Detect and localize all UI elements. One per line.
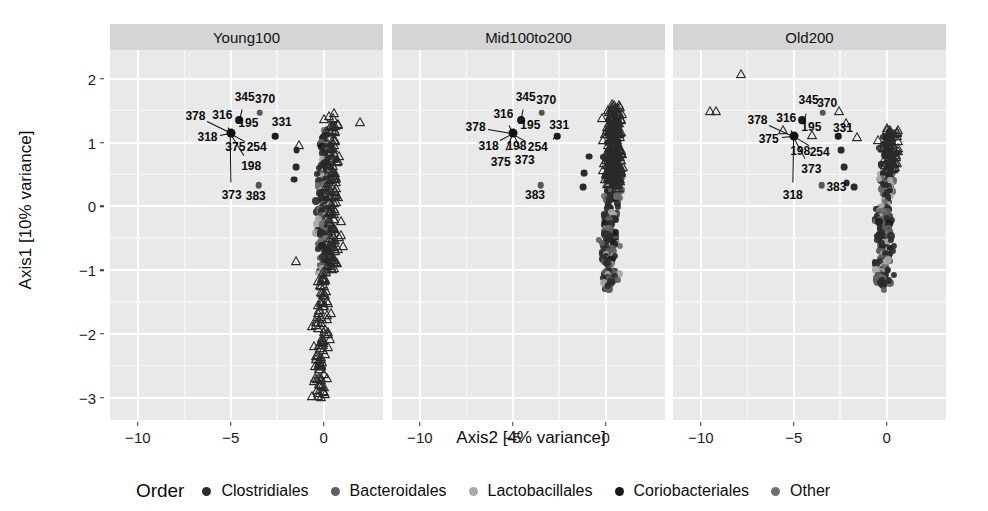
point-label-370: 370 [536,93,556,107]
x-axis-ticks: −10−50 [673,422,946,448]
y-tick-label: −2 [79,325,96,342]
point-label-345: 345 [235,90,255,104]
data-point-triangle [293,140,303,150]
legend-swatch-bacteroidales [331,487,340,496]
legend-title: Order [136,480,185,502]
data-point-circle [884,256,892,264]
x-tick-mark [700,422,702,426]
point-label-383: 383 [246,189,266,203]
y-tick-mark [100,206,104,208]
x-tick-mark [605,422,607,426]
data-point-circle [256,109,263,116]
gridline-minor-y [673,365,946,366]
point-label-370: 370 [255,92,275,106]
biplot-origin-point [508,128,517,137]
point-label-375: 375 [491,155,511,169]
biplot-origin-point [789,132,798,141]
legend-swatch-coriobacteriales [615,487,624,496]
data-point-triangle [736,68,746,78]
gridline-minor-y [673,301,946,302]
biplot-origin-point [226,128,235,137]
data-point-triangle [711,105,721,115]
facet-strip-mid100to200: Mid100to200 [392,24,665,50]
gridline-major-x [512,50,514,420]
x-tick-mark [419,422,421,426]
legend-item-coriobacteriales[interactable]: Coriobacteriales [615,482,750,500]
y-tick-label: 1 [88,134,96,151]
gridline-major-y [673,205,946,207]
gridline-major-y [392,205,665,207]
data-point-triangle [852,132,862,142]
point-label-373: 373 [515,153,535,167]
gridline-minor-y [110,110,383,111]
point-label-383: 383 [525,188,545,202]
y-tick-label: −3 [79,389,96,406]
gridline-major-y [392,78,665,80]
x-tick-label: −10 [125,429,150,446]
point-label-345: 345 [799,93,819,107]
data-point-circle [554,133,561,140]
facet-panel-young100: Young100 3453703783161953313183752541983… [110,24,383,420]
point-label-318: 318 [197,130,217,144]
data-point-circle [580,184,587,191]
data-point-triangle [355,117,365,127]
data-point-circle [851,184,858,191]
facet-strip-old200: Old200 [673,24,946,50]
gridline-minor-y [392,237,665,238]
y-axis-ticks: 210−1−2−3 [46,0,106,420]
legend-label: Lactobacillales [488,482,593,500]
point-label-318: 318 [479,139,499,153]
x-tick-mark [886,422,888,426]
data-point-circle [272,133,279,140]
legend-item-clostridiales[interactable]: Clostridiales [202,482,308,500]
data-point-circle [818,182,825,189]
point-label-375: 375 [759,132,779,146]
x-tick-mark [323,422,325,426]
point-label-254: 254 [247,140,267,154]
legend-swatch-clostridiales [202,487,211,496]
gridline-minor-y [110,365,383,366]
legend-label: Coriobacteriales [634,482,750,500]
data-point-circle [819,109,826,116]
y-tick-mark [100,269,104,271]
x-tick-mark [793,422,795,426]
point-label-316: 316 [212,108,232,122]
y-tick-mark [100,142,104,144]
data-point-triangle [291,256,301,266]
x-tick-label: −5 [504,429,521,446]
point-label-370: 370 [817,96,837,110]
data-point-circle [292,163,299,170]
ordination-figure: Axis1 [10% variance] 210−1−2−3 Young100 … [0,0,988,511]
legend-item-other[interactable]: Other [771,482,830,500]
gridline-major-x [793,50,795,420]
y-tick-label: −1 [79,262,96,279]
gridline-minor-y [392,301,665,302]
legend-item-lactobacillales[interactable]: Lactobacillales [469,482,593,500]
x-axis-ticks: −10−50 [392,422,665,448]
gridline-major-x [419,50,421,420]
gridline-major-x [230,50,232,420]
data-point-triangle [326,125,336,135]
x-tick-label: −5 [222,429,239,446]
gridline-minor-y [110,174,383,175]
point-label-195: 195 [520,118,540,132]
facet-panel-mid100to200: Mid100to200 3453703163781953313181982543… [392,24,665,420]
point-label-195: 195 [801,120,821,134]
plot-area-mid100to200: 345370316378195331318198254375373383 [392,50,665,420]
point-label-378: 378 [185,109,205,123]
point-label-331: 331 [833,121,853,135]
x-tick-mark [230,422,232,426]
facet-panel-old200: Old200 345370316378195331375198254373318… [673,24,946,420]
point-label-378: 378 [747,113,767,127]
y-tick-label: 2 [88,70,96,87]
gridline-major-y [673,269,946,271]
gridline-major-y [110,333,383,335]
x-tick-label: −10 [688,429,713,446]
legend-label: Clostridiales [221,482,308,500]
y-tick-mark [100,78,104,80]
x-tick-label: −10 [407,429,432,446]
legend-swatch-other [771,487,780,496]
legend-item-bacteroidales[interactable]: Bacteroidales [331,482,447,500]
data-point-triangle [313,390,323,400]
legend: Order ClostridialesBacteroidalesLactobac… [0,472,988,510]
